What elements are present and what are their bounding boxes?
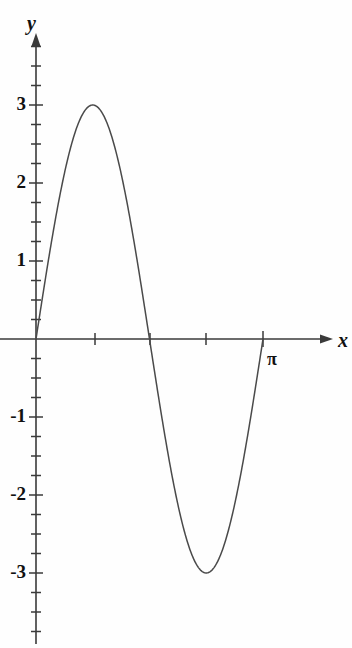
y-tick-label-3: 3 (17, 93, 27, 114)
y-axis-arrow-icon (32, 33, 41, 46)
y-tick-label-1: 1 (17, 249, 27, 270)
x-tick-label-pi: π (267, 349, 277, 369)
y-tick-label-2: 2 (17, 171, 27, 192)
sine-graph-figure: 3 2 1 -1 -2 -3 π y x (0, 0, 352, 648)
y-tick-label-neg2: -2 (10, 483, 26, 504)
graph-canvas: 3 2 1 -1 -2 -3 π y x (0, 0, 352, 648)
x-axis-group (0, 335, 333, 344)
y-tick-label-neg3: -3 (10, 561, 26, 582)
x-axis-label: x (337, 329, 348, 351)
y-tick-label-neg1: -1 (10, 405, 26, 426)
x-axis-arrow-icon (320, 335, 333, 344)
y-axis-label: y (25, 12, 36, 35)
